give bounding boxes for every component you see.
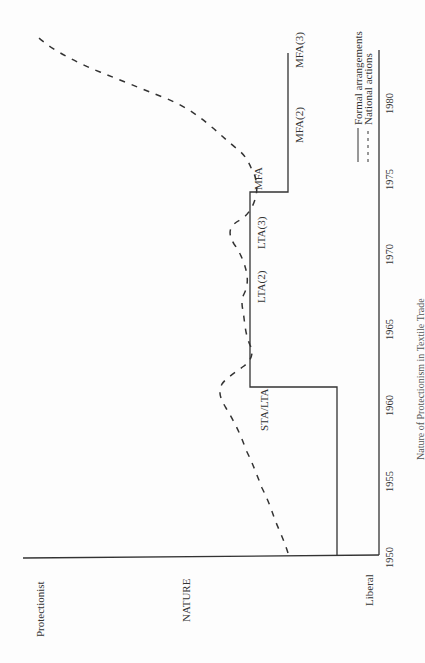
tick-1975: 1975 bbox=[384, 169, 395, 190]
tick-1955: 1955 bbox=[384, 471, 395, 492]
annotation-mfa2: MFA(2) bbox=[293, 107, 306, 143]
chart: STA/LTA LTA(2) LTA(3) MFA MFA(2) MFA(3) … bbox=[0, 0, 425, 663]
label-protectionist: Protectionist bbox=[34, 581, 46, 637]
label-liberal: Liberal bbox=[363, 574, 375, 606]
tick-1950: 1950 bbox=[384, 547, 395, 568]
tick-1965: 1965 bbox=[384, 319, 395, 340]
annotation-lta2: LTA(2) bbox=[255, 270, 268, 303]
tick-1960: 1960 bbox=[384, 395, 395, 416]
label-nature: NATURE bbox=[180, 578, 192, 622]
figure-caption: Nature of Protectionism in Textile Trade bbox=[415, 298, 425, 460]
annotation-lta3: LTA(3) bbox=[255, 216, 268, 249]
tick-1970: 1970 bbox=[384, 244, 395, 265]
annotation-sta-lta: STA/LTA bbox=[258, 388, 270, 431]
tick-1980: 1980 bbox=[384, 93, 395, 114]
annotation-mfa: MFA bbox=[252, 167, 264, 190]
legend-national: National actions bbox=[362, 53, 374, 125]
annotation-mfa3: MFA(3) bbox=[293, 32, 306, 68]
value-axis bbox=[23, 555, 379, 558]
